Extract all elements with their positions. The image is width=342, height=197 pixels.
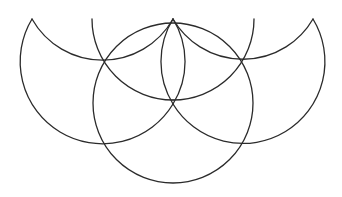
geometric-arc-diagram [0, 0, 342, 197]
right-crescent-lower-arc [173, 19, 325, 143]
inner-left-lens-arc [161, 19, 173, 104]
left-crescent-upper-arc [32, 19, 173, 60]
inner-right-lens-arc [173, 19, 185, 104]
right-crescent-upper-arc [173, 19, 313, 59]
arc-figure [0, 0, 342, 197]
